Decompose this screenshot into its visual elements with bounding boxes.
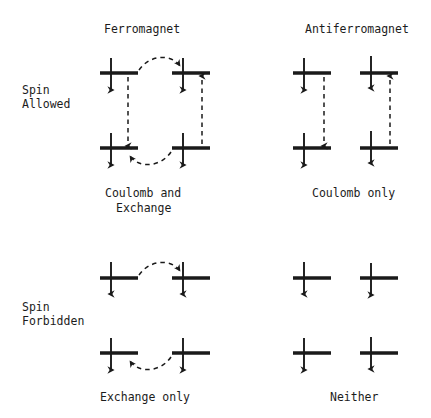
row-header-spin-forbidden-line2: Forbidden — [22, 314, 84, 328]
transition-top-curve-rightward — [139, 262, 180, 275]
row-header-spin-allowed-line1: Spin — [22, 83, 50, 97]
transition-top-curve-rightward — [139, 57, 180, 70]
panel-antiferromagnet-spin-allowed — [293, 56, 398, 165]
site-upper-right — [360, 263, 398, 295]
site-lower-right — [172, 133, 210, 165]
panel-antiferromagnet-spin-forbidden — [293, 262, 398, 370]
caption-ferro-allowed-line2: Exchange — [116, 201, 171, 215]
caption-antiferro-allowed: Coulomb only — [312, 186, 395, 200]
caption-antiferro-forbidden: Neither — [330, 390, 378, 404]
site-lower-left — [293, 338, 331, 370]
site-upper-right — [360, 56, 398, 88]
site-upper-right — [172, 262, 210, 294]
panel-ferromagnet-spin-forbidden — [100, 262, 210, 370]
transition-bottom-curve-leftward — [130, 152, 171, 165]
site-lower-right — [360, 131, 398, 163]
exchange-mechanism-figure — [0, 0, 431, 418]
row-header-spin-allowed-line2: Allowed — [22, 97, 70, 111]
site-lower-left — [293, 133, 331, 165]
column-header-antiferromagnet: Antiferromagnet — [305, 22, 409, 36]
site-upper-left — [293, 58, 331, 90]
site-upper-left — [100, 262, 138, 294]
site-lower-left — [100, 338, 138, 370]
site-upper-left — [293, 262, 331, 294]
site-lower-right — [172, 338, 210, 370]
transition-bottom-curve-leftward — [130, 357, 171, 370]
site-upper-left — [100, 58, 138, 90]
panel-ferromagnet-spin-allowed — [100, 57, 210, 165]
caption-ferro-allowed-line1: Coulomb and — [105, 186, 181, 200]
figure-canvas — [0, 0, 431, 418]
site-lower-left — [100, 133, 138, 165]
site-lower-right — [360, 337, 398, 369]
caption-ferro-forbidden: Exchange only — [100, 390, 190, 404]
column-header-ferromagnet: Ferromagnet — [104, 22, 180, 36]
row-header-spin-forbidden-line1: Spin — [22, 300, 50, 314]
